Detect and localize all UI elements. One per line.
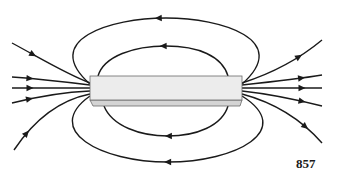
field-line-right-fan-4 — [242, 91, 322, 106]
field-line-top-inner-loop — [98, 46, 228, 76]
arrowhead-icon — [27, 85, 34, 91]
arrowhead-icon — [164, 159, 171, 165]
magnet-face — [90, 76, 242, 100]
bar-magnet-field-diagram — [0, 0, 340, 174]
bar-magnet — [90, 76, 242, 106]
arrowhead-icon — [26, 75, 33, 81]
arrowhead-icon — [165, 133, 172, 139]
figure-number: 857 — [296, 156, 316, 172]
arrowhead-icon — [299, 85, 306, 91]
arrowhead-icon — [155, 15, 162, 21]
arrowhead-icon — [294, 55, 302, 61]
field-line-right-fan-5 — [242, 94, 322, 143]
field-line-bottom-inner-loop — [104, 106, 228, 136]
arrowhead-icon — [160, 43, 167, 49]
field-line-left-fan-5 — [14, 94, 90, 150]
field-line-top-outer-loop — [73, 18, 259, 84]
magnet-bevel — [90, 100, 242, 106]
field-line-left-fan-1 — [12, 43, 90, 83]
arrowhead-icon — [298, 75, 305, 81]
field-line-right-fan-2 — [242, 75, 322, 85]
arrowhead-icon — [298, 97, 306, 103]
arrowhead-icon — [25, 97, 33, 103]
